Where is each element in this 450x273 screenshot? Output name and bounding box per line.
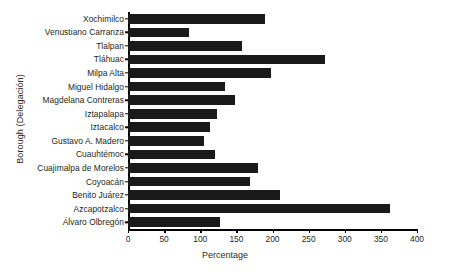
x-axis-tick xyxy=(345,229,346,233)
bar-row: Tláhuac xyxy=(128,53,417,67)
x-axis-tick xyxy=(236,229,237,233)
bar xyxy=(128,55,325,65)
category-label: Benito Juárez xyxy=(72,190,124,200)
x-axis-tick xyxy=(128,229,129,233)
bar xyxy=(128,204,390,214)
bar xyxy=(128,150,215,160)
bar-row: Cuauhtémoc xyxy=(128,148,417,162)
bar-row: Gustavo A. Madero xyxy=(128,134,417,148)
bar-row: Azcapotzalco xyxy=(128,202,417,216)
category-label: Tlalpan xyxy=(96,41,124,51)
bar-row: Tlalpan xyxy=(128,39,417,53)
x-axis-tick-label: 250 xyxy=(302,234,316,244)
bar xyxy=(128,163,258,173)
category-label: Milpa Alta xyxy=(87,68,124,78)
bar xyxy=(128,177,250,187)
category-label: Cuajimalpa de Morelos xyxy=(37,163,124,173)
x-axis-tick xyxy=(200,229,201,233)
bar-row: Milpa Alta xyxy=(128,66,417,80)
x-axis-tick xyxy=(417,229,418,233)
x-axis-tick-label: 150 xyxy=(229,234,243,244)
bar-row: Xochimilco xyxy=(128,12,417,26)
bar xyxy=(128,14,265,24)
category-label: Venustiano Carranza xyxy=(45,27,124,37)
x-axis-tick-label: 200 xyxy=(266,234,280,244)
x-axis-tick xyxy=(309,229,310,233)
bar-row: Magdelana Contreras xyxy=(128,93,417,107)
bar xyxy=(128,217,220,227)
category-label: Gustavo A. Madero xyxy=(51,136,124,146)
bar xyxy=(128,122,210,132)
category-label: Xochimilco xyxy=(83,14,124,24)
bar-chart: Borough (Delegación) XochimilcoVenustian… xyxy=(0,0,450,273)
bar xyxy=(128,82,225,92)
x-axis-tick-label: 350 xyxy=(374,234,388,244)
category-label: Tláhuac xyxy=(94,54,124,64)
bar-row: Iztacalco xyxy=(128,121,417,135)
bar-row: Álvaro Olbregón xyxy=(128,215,417,229)
category-label: Cuauhtémoc xyxy=(76,149,124,159)
x-axis-tick-label: 300 xyxy=(338,234,352,244)
bar-row: Cuajimalpa de Morelos xyxy=(128,161,417,175)
bar-row: Venustiano Carranza xyxy=(128,26,417,40)
x-axis-title: Percentage xyxy=(0,250,450,260)
category-label: Iztacalco xyxy=(90,122,124,132)
bar xyxy=(128,95,235,105)
category-label: Coyoacán xyxy=(86,177,124,187)
category-label: Azcapotzalco xyxy=(74,204,124,214)
category-label: Iztapalapa xyxy=(85,109,124,119)
x-axis-tick-label: 400 xyxy=(410,234,424,244)
x-axis-tick-label: 100 xyxy=(193,234,207,244)
bar-row: Coyoacán xyxy=(128,175,417,189)
plot-area: XochimilcoVenustiano CarranzaTlalpanTláh… xyxy=(128,12,417,229)
bar-row: Iztapalapa xyxy=(128,107,417,121)
bar xyxy=(128,136,204,146)
x-axis-tick xyxy=(273,229,274,233)
bar-row: Miguel Hidalgo xyxy=(128,80,417,94)
x-axis-tick xyxy=(381,229,382,233)
x-axis-tick-label: 0 xyxy=(126,234,131,244)
bar xyxy=(128,41,242,51)
category-label: Álvaro Olbregón xyxy=(63,217,124,227)
y-axis-title: Borough (Delegación) xyxy=(15,39,25,199)
x-axis-tick-label: 50 xyxy=(159,234,168,244)
bar xyxy=(128,190,280,200)
bar xyxy=(128,68,271,78)
x-axis-tick xyxy=(164,229,165,233)
category-label: Miguel Hidalgo xyxy=(68,82,124,92)
bar-row: Benito Juárez xyxy=(128,188,417,202)
category-label: Magdelana Contreras xyxy=(43,95,125,105)
bar xyxy=(128,28,189,38)
bar xyxy=(128,109,217,119)
